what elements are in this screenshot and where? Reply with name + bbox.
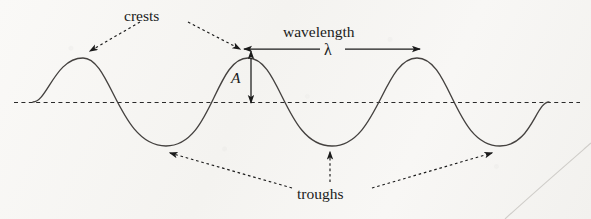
amplitude-label: A <box>231 70 240 86</box>
troughs-leader-right <box>372 153 492 188</box>
crests-leader-left <box>90 22 140 51</box>
page-edge-arc <box>505 143 591 219</box>
wave-diagram-figure: crests wavelength λ A troughs <box>0 0 591 219</box>
troughs-leader-left <box>170 153 292 188</box>
crests-label: crests <box>124 8 159 24</box>
wavelength-label: wavelength <box>283 24 354 40</box>
troughs-label: troughs <box>297 186 344 202</box>
crests-leader-right <box>188 22 240 49</box>
lambda-symbol-label: λ <box>324 42 332 58</box>
